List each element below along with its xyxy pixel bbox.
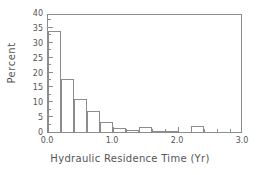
x-tick-mark bbox=[100, 129, 101, 132]
x-tick-mark bbox=[178, 127, 179, 132]
histogram-figure: 0.01.02.03.0 0510152025303540 Hydraulic … bbox=[0, 0, 260, 175]
histogram-bar bbox=[61, 79, 74, 132]
y-tick-label: 40 bbox=[21, 9, 43, 18]
x-tick-mark bbox=[87, 129, 88, 132]
y-tick-mark bbox=[48, 49, 51, 50]
y-axis-title: Percent bbox=[6, 18, 18, 108]
histogram-bar bbox=[152, 131, 165, 132]
y-tick-mark bbox=[48, 79, 51, 80]
x-tick-label: 1.0 bbox=[97, 136, 127, 145]
x-tick-mark bbox=[61, 129, 62, 132]
y-tick-label: 15 bbox=[21, 83, 43, 92]
histogram-bar bbox=[87, 111, 100, 132]
x-tick-mark bbox=[74, 129, 75, 132]
x-tick-mark bbox=[230, 129, 231, 132]
histogram-bar bbox=[74, 99, 87, 132]
y-tick-mark bbox=[48, 64, 51, 65]
y-tick-mark bbox=[48, 72, 53, 73]
x-tick-mark bbox=[139, 129, 140, 132]
x-tick-mark bbox=[217, 129, 218, 132]
x-tick-label: 2.0 bbox=[162, 136, 192, 145]
y-tick-mark bbox=[48, 86, 53, 87]
histogram-bar bbox=[139, 127, 152, 132]
x-tick-mark bbox=[113, 127, 114, 132]
y-tick-label: 5 bbox=[21, 113, 43, 122]
y-tick-mark bbox=[48, 42, 53, 43]
y-tick-label: 0 bbox=[21, 128, 43, 137]
y-tick-label: 35 bbox=[21, 24, 43, 33]
y-tick-mark bbox=[48, 34, 51, 35]
histogram-bar bbox=[113, 128, 126, 132]
x-tick-label: 0.0 bbox=[32, 136, 62, 145]
y-tick-label: 30 bbox=[21, 39, 43, 48]
y-tick-mark bbox=[48, 27, 53, 28]
x-tick-mark bbox=[152, 129, 153, 132]
x-axis-title: Hydraulic Residence Time (Yr) bbox=[0, 152, 260, 165]
y-tick-mark bbox=[48, 116, 53, 117]
plot-area bbox=[48, 15, 241, 132]
y-tick-label: 25 bbox=[21, 54, 43, 63]
x-tick-mark bbox=[126, 129, 127, 132]
x-tick-mark bbox=[204, 129, 205, 132]
x-tick-mark bbox=[191, 129, 192, 132]
x-tick-mark bbox=[165, 129, 166, 132]
y-tick-mark bbox=[48, 101, 53, 102]
histogram-bar bbox=[191, 126, 204, 132]
histogram-bar bbox=[126, 130, 139, 132]
y-tick-mark bbox=[48, 57, 53, 58]
histogram-bar bbox=[165, 131, 178, 132]
y-tick-label: 10 bbox=[21, 98, 43, 107]
histogram-bar bbox=[100, 122, 113, 132]
y-tick-mark bbox=[48, 109, 51, 110]
y-tick-label: 20 bbox=[21, 69, 43, 78]
x-tick-label: 3.0 bbox=[227, 136, 257, 145]
plot-frame bbox=[47, 14, 242, 133]
y-tick-mark bbox=[48, 94, 51, 95]
y-tick-mark bbox=[48, 124, 51, 125]
y-tick-mark bbox=[48, 19, 51, 20]
